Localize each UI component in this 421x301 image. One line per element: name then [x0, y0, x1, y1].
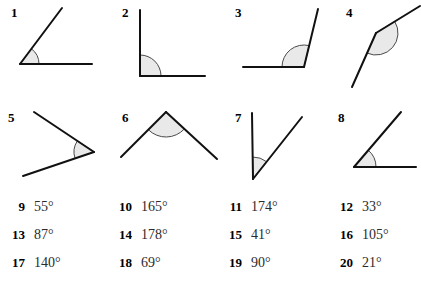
- answer-item-20: 20 21°: [334, 249, 382, 276]
- answer-item-18: 18 69°: [113, 249, 161, 276]
- answer-number: 16: [334, 227, 353, 243]
- answer-item-16: 16 105°: [334, 221, 389, 248]
- answer-value: 33°: [362, 199, 382, 215]
- angle-ray-a: [252, 113, 253, 179]
- answer-value: 69°: [141, 255, 161, 271]
- answer-item-13: 13 87°: [6, 221, 54, 248]
- answer-number: 19: [223, 255, 242, 271]
- angles-worksheet: 1 2 3 4 5 6 7 8 9 55° 10 165° 11 174° 12…: [0, 0, 421, 301]
- angle-ray-b: [166, 112, 217, 159]
- answer-value: 41°: [251, 227, 271, 243]
- answer-value: 174°: [251, 199, 278, 215]
- answer-item-10: 10 165°: [113, 193, 168, 220]
- angle-figure-7: [252, 113, 302, 179]
- answer-list: 9 55° 10 165° 11 174° 12 33° 13 87° 14: [0, 193, 421, 301]
- answer-row: 13 87° 14 178° 15 41° 16 105°: [0, 221, 421, 248]
- angle-arc: [140, 55, 161, 76]
- answer-number: 20: [334, 255, 353, 271]
- answer-item-14: 14 178°: [113, 221, 168, 248]
- answer-number: 13: [6, 227, 25, 243]
- angle-ray-b: [304, 9, 318, 67]
- angle-arc: [367, 21, 398, 55]
- answer-item-9: 9 55°: [6, 193, 54, 220]
- angle-figure-3: [243, 9, 318, 67]
- angle-arc: [253, 157, 267, 179]
- answer-row: 9 55° 10 165° 11 174° 12 33°: [0, 193, 421, 220]
- answer-value: 90°: [251, 255, 271, 271]
- answer-number: 9: [6, 199, 25, 215]
- answer-number: 17: [6, 255, 25, 271]
- answer-value: 55°: [34, 199, 54, 215]
- answer-item-12: 12 33°: [334, 193, 382, 220]
- figure-label-2: 2: [122, 6, 129, 19]
- angle-ray-b: [354, 112, 401, 167]
- answer-item-19: 19 90°: [223, 249, 271, 276]
- answer-row: 17 140° 18 69° 19 90° 20 21°: [0, 249, 421, 276]
- figure-label-3: 3: [235, 6, 242, 19]
- angle-figure-5: [23, 112, 94, 176]
- figure-label-5: 5: [8, 111, 15, 124]
- answer-item-15: 15 41°: [223, 221, 271, 248]
- answer-value: 87°: [34, 227, 54, 243]
- answer-number: 18: [113, 255, 132, 271]
- angle-ray-b: [352, 33, 376, 87]
- angle-arc: [354, 150, 376, 167]
- answer-number: 15: [223, 227, 242, 243]
- angle-ray-a: [34, 112, 94, 152]
- answer-value: 105°: [362, 227, 389, 243]
- answer-number: 14: [113, 227, 132, 243]
- figure-label-4: 4: [346, 6, 353, 19]
- answer-item-17: 17 140°: [6, 249, 61, 276]
- angle-figure-4: [352, 6, 420, 87]
- answer-value: 165°: [141, 199, 168, 215]
- angle-ray-b: [20, 8, 62, 64]
- angle-arc: [20, 49, 39, 64]
- figure-label-8: 8: [338, 111, 345, 124]
- angle-ray-b: [253, 117, 302, 179]
- figure-label-1: 1: [11, 6, 18, 19]
- angle-figure-1: [20, 8, 92, 64]
- answer-value: 21°: [362, 255, 382, 271]
- figure-label-6: 6: [122, 111, 129, 124]
- angle-ray-b: [23, 152, 94, 176]
- figure-label-7: 7: [235, 111, 242, 124]
- answer-value: 140°: [34, 255, 61, 271]
- answer-item-11: 11 174°: [223, 193, 278, 220]
- angle-figure-2: [140, 10, 205, 76]
- angle-arc: [282, 45, 309, 67]
- angle-arc: [148, 112, 184, 137]
- angle-arc: [74, 141, 94, 158]
- angle-ray-a: [376, 6, 420, 33]
- answer-number: 10: [113, 199, 132, 215]
- answer-number: 11: [223, 199, 242, 215]
- angle-figure-6: [121, 112, 217, 159]
- answer-value: 178°: [141, 227, 168, 243]
- answer-number: 12: [334, 199, 353, 215]
- angle-figure-8: [354, 112, 416, 167]
